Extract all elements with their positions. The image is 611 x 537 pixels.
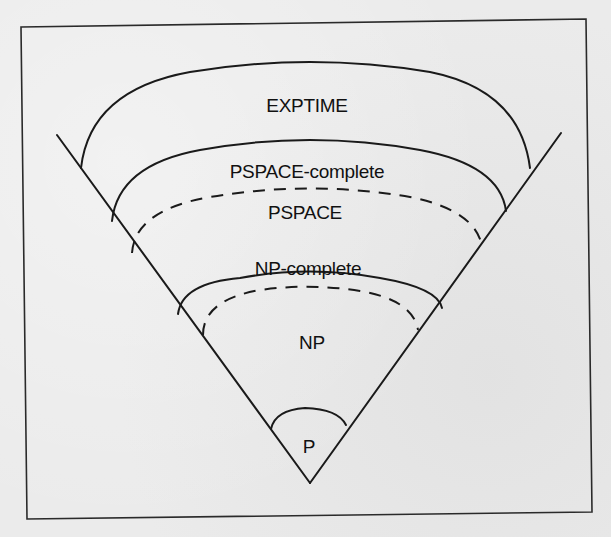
label-np: NP — [299, 333, 325, 352]
label-np-complete: NP-complete — [255, 259, 362, 278]
label-pspace: PSPACE — [268, 203, 342, 222]
np-boundary — [203, 287, 418, 335]
label-p: P — [303, 437, 315, 456]
p-boundary — [271, 408, 346, 429]
diagram-page: EXPTIME PSPACE-complete PSPACE NP-comple… — [0, 0, 611, 537]
label-pspace-complete: PSPACE-complete — [230, 162, 385, 181]
cone-right-edge — [310, 133, 561, 483]
label-exptime: EXPTIME — [266, 96, 347, 115]
cone-left-edge — [57, 135, 310, 483]
